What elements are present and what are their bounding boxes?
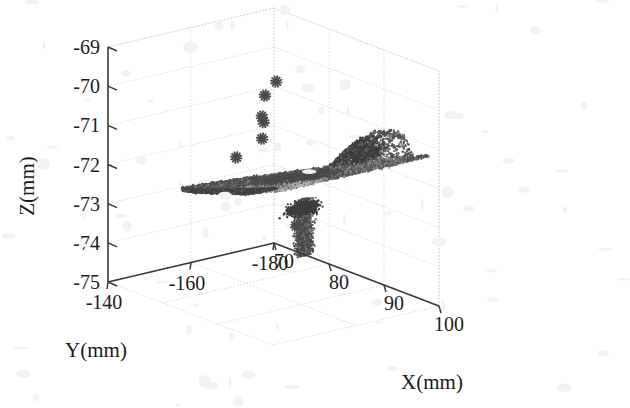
x-axis-title: X(mm)	[401, 370, 463, 394]
scan-speck	[220, 202, 230, 212]
scan-speck	[340, 79, 352, 90]
scan-speck	[176, 403, 180, 407]
scan-speck	[6, 136, 14, 141]
scan-speck	[458, 5, 468, 8]
scan-speck	[2, 233, 16, 239]
z-tick-label: -72	[73, 154, 100, 176]
outlier-asterisk-marker	[271, 76, 282, 87]
scan-speck	[487, 297, 499, 302]
scan-speck	[581, 102, 587, 110]
scan-speck	[121, 70, 131, 77]
scan-speck	[178, 181, 182, 186]
scan-speck	[486, 269, 497, 272]
y-tick-label: -140	[86, 291, 123, 313]
scan-speck	[229, 378, 231, 389]
scan-speck	[302, 84, 316, 93]
scan-speck	[33, 394, 40, 401]
outlier-asterisk-marker	[231, 152, 242, 163]
scan-speck	[276, 323, 279, 330]
scan-speck	[43, 41, 46, 50]
scan-speck	[258, 148, 269, 152]
z-tick-label: -69	[73, 36, 100, 58]
x-tick-label: 100	[434, 313, 464, 335]
scan-speck	[286, 21, 288, 31]
scan-speck	[179, 142, 182, 148]
outlier-asterisk-marker	[258, 117, 269, 128]
y-tick-mark	[190, 263, 191, 270]
scan-speck	[242, 371, 255, 379]
scan-speck	[183, 42, 198, 53]
scan-speck	[24, 0, 39, 5]
scan-speck	[598, 248, 613, 250]
scan-speck	[215, 21, 223, 31]
scan-speck	[306, 140, 315, 146]
outlier-asterisk-marker	[291, 220, 302, 231]
scan-speck	[16, 370, 31, 378]
scan-speck	[348, 135, 359, 138]
scan-speck	[502, 158, 515, 164]
scan-speck	[199, 375, 211, 387]
scan-speck	[384, 211, 391, 215]
scan-speck	[302, 169, 317, 174]
z-tick-label: -75	[73, 271, 100, 293]
scan-speck	[421, 199, 424, 210]
scan-speck	[116, 214, 127, 218]
scan-speck	[14, 346, 30, 349]
scan-speck	[518, 186, 529, 192]
scan-speck	[496, 4, 498, 13]
scan-speck	[371, 298, 383, 305]
scan-speck	[463, 205, 474, 211]
x-tick-label: 80	[329, 271, 349, 293]
z-tick-label: -73	[73, 193, 100, 215]
scan-speck	[79, 244, 89, 247]
scan-speck	[218, 192, 232, 200]
scan-speck	[229, 332, 233, 341]
scan-speck	[148, 100, 154, 103]
scan-speck	[202, 227, 208, 239]
scan-speck	[482, 130, 488, 133]
scan-speck	[387, 366, 398, 371]
scan-speck	[235, 198, 242, 205]
scan-speck	[136, 157, 147, 165]
scan-speck	[193, 304, 199, 307]
y-tick-mark	[107, 282, 108, 289]
scan-speck	[285, 384, 300, 389]
scan-speck	[343, 214, 346, 225]
scan-speck	[376, 322, 383, 324]
scan-speck	[285, 223, 291, 227]
scan-speck	[318, 106, 324, 115]
scan-speck	[156, 280, 170, 283]
outlier-asterisk-marker	[260, 90, 271, 101]
scan-speck	[554, 170, 569, 173]
z-tick-label: -70	[73, 75, 100, 97]
scan-speck	[274, 143, 282, 152]
x-tick-label: 90	[384, 292, 404, 314]
z-tick-label: -71	[73, 114, 100, 136]
scan-speck	[452, 113, 464, 119]
outlier-asterisk-marker	[250, 175, 261, 186]
z-axis-title: Z(mm)	[15, 156, 39, 215]
y-axis-title: Y(mm)	[65, 338, 127, 362]
scan-speck	[230, 20, 234, 30]
x-tick-label: 70	[274, 250, 294, 272]
scan-speck	[84, 99, 90, 101]
scan-speck	[432, 237, 447, 246]
scan-speck	[347, 105, 350, 116]
scan-speck	[37, 158, 50, 169]
y-tick-label: -160	[169, 272, 206, 294]
scan-speck	[84, 211, 86, 220]
scan-speck	[441, 300, 445, 311]
scan-speck	[233, 396, 244, 407]
scan-speck	[280, 5, 290, 15]
scan-speck	[562, 207, 567, 214]
plot-figure: Z(mm) Y(mm) X(mm) -69-70-71-72-73-74-75-…	[0, 0, 630, 408]
scan-speck	[123, 220, 132, 231]
outlier-asterisk-marker	[257, 133, 268, 144]
scan-speck	[598, 350, 609, 356]
scan-speck	[295, 65, 305, 74]
scan-speck	[530, 27, 541, 34]
scan-speck	[442, 186, 453, 198]
scan-speck	[557, 384, 573, 392]
scan-speck	[46, 145, 58, 148]
scan-speck	[262, 235, 267, 240]
